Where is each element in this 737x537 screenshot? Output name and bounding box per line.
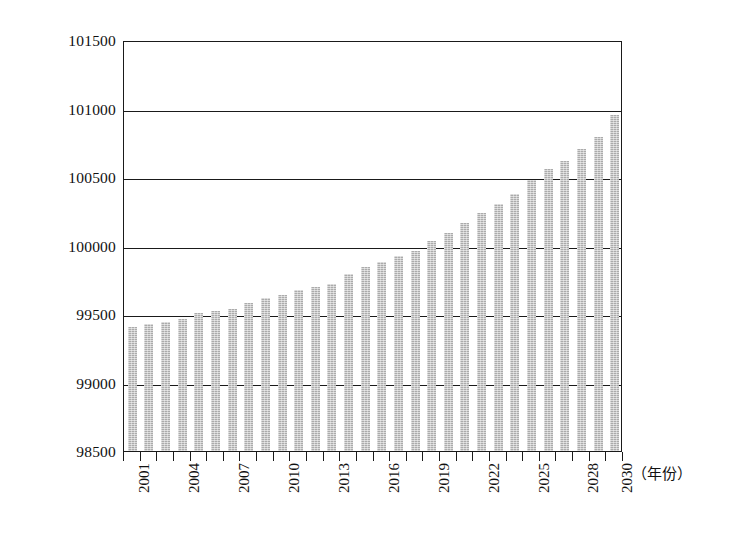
x-axis-tick	[506, 452, 507, 461]
x-axis-tick	[572, 452, 573, 461]
x-axis-tick	[339, 452, 340, 461]
x-axis-tick	[439, 452, 440, 461]
bar	[344, 274, 353, 451]
x-axis-tick	[123, 452, 124, 461]
x-axis-tick-label: 2013	[337, 463, 352, 493]
x-axis-tick	[489, 452, 490, 461]
x-axis-tick	[323, 452, 324, 461]
bar	[411, 251, 420, 451]
bar	[294, 290, 303, 451]
y-axis: 101500101000100500100000995009900098500	[8, 0, 116, 537]
bar	[577, 149, 586, 451]
y-axis-tick-label: 100500	[16, 170, 116, 186]
x-axis-tick	[356, 452, 357, 461]
bar-series	[124, 42, 621, 451]
bar	[244, 303, 253, 451]
x-axis-tick-label: 2022	[487, 463, 502, 493]
y-axis-tick-label: 99500	[16, 307, 116, 323]
x-axis-tick	[539, 452, 540, 461]
bar	[178, 319, 187, 451]
x-axis-tick	[190, 452, 191, 461]
bar	[377, 262, 386, 451]
bar	[361, 267, 370, 451]
x-axis-tick	[389, 452, 390, 461]
x-axis-tick	[589, 452, 590, 461]
bar	[144, 324, 153, 451]
bar	[394, 256, 403, 451]
y-axis-tick-label: 101500	[16, 33, 116, 49]
x-axis-tick	[456, 452, 457, 461]
y-axis-tick-label: 99000	[16, 376, 116, 392]
y-axis-tick-label: 101000	[16, 102, 116, 118]
bar-chart-figure: 101500101000100500100000995009900098500 …	[0, 0, 737, 537]
x-axis-tick	[289, 452, 290, 461]
x-axis-tick	[223, 452, 224, 461]
y-axis-tick-label: 100000	[16, 239, 116, 255]
bar	[211, 311, 220, 451]
bar	[427, 241, 436, 451]
bar	[161, 322, 170, 451]
bar	[477, 213, 486, 451]
x-axis-title: （年份）	[632, 462, 692, 483]
x-axis-tick	[140, 452, 141, 461]
bar	[560, 161, 569, 451]
bar	[278, 295, 287, 451]
x-axis-tick	[522, 452, 523, 461]
x-axis-tick	[472, 452, 473, 461]
x-axis-tick	[256, 452, 257, 461]
bar	[128, 327, 137, 451]
x-axis-tick	[173, 452, 174, 461]
x-axis-labels: 2001200420072010201320162019202220252028…	[123, 463, 643, 533]
plot-area	[123, 41, 622, 452]
x-axis-tick-label: 2028	[586, 463, 601, 493]
bar	[527, 180, 536, 451]
x-axis-tick	[156, 452, 157, 461]
bar	[228, 309, 237, 451]
x-axis-tick	[555, 452, 556, 461]
bar	[594, 137, 603, 451]
x-axis-tick	[273, 452, 274, 461]
x-axis-tick	[306, 452, 307, 461]
bar	[444, 233, 453, 452]
x-axis-tick-label: 2016	[387, 463, 402, 493]
x-axis-tick	[406, 452, 407, 461]
bar	[510, 194, 519, 451]
bar	[494, 204, 503, 451]
x-axis-tick	[373, 452, 374, 461]
y-axis-tick-label: 98500	[16, 444, 116, 460]
x-axis-tick	[622, 452, 623, 461]
x-axis-tick	[206, 452, 207, 461]
x-axis-tick-label: 2001	[137, 463, 152, 493]
x-axis-tick	[422, 452, 423, 461]
bar	[261, 298, 270, 451]
bar	[610, 115, 619, 451]
bar	[544, 169, 553, 451]
x-axis-tick-label: 2019	[437, 463, 452, 493]
x-axis-ticks	[123, 452, 622, 463]
bar	[311, 287, 320, 451]
bar	[327, 284, 336, 451]
x-axis-tick-label: 2004	[187, 463, 202, 493]
bar	[194, 313, 203, 451]
x-axis-tick-label: 2007	[237, 463, 252, 493]
x-axis-tick	[239, 452, 240, 461]
x-axis-tick-label: 2010	[287, 463, 302, 493]
x-axis-tick-label: 2025	[537, 463, 552, 493]
bar	[460, 223, 469, 451]
x-axis-tick	[605, 452, 606, 461]
